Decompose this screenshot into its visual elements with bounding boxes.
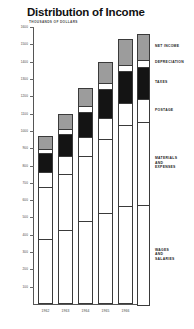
y-axis-tick	[30, 252, 34, 253]
y-axis-tick	[30, 62, 34, 63]
x-axis-label-1964: 1964	[76, 309, 96, 313]
bar-segment-wages-and-salaries	[79, 222, 92, 303]
bar-1963[interactable]	[58, 114, 73, 304]
x-axis-label-1966: 1966	[116, 309, 136, 313]
y-axis-tick-label: 500	[23, 215, 28, 219]
bar-segment-net-income	[59, 115, 72, 131]
y-axis-tick-label: 200	[23, 267, 28, 271]
bar-segment-materials-and-expenses	[79, 157, 92, 222]
y-axis-tick-label: 1000	[21, 129, 28, 133]
chart-subtitle: THOUSANDS OF DOLLARS	[29, 20, 78, 24]
y-axis-tick	[30, 114, 34, 115]
y-axis-tick	[30, 200, 34, 201]
legend-swatch-net-income	[138, 35, 149, 61]
bar-segment-postage	[39, 173, 52, 188]
bar-segment-postage	[59, 157, 72, 174]
y-axis-tick	[30, 166, 34, 167]
y-axis-tick-label: 900	[23, 146, 28, 150]
legend-label-materials-and-expenses: MATERIALS AND EXPENSES	[155, 156, 177, 170]
y-axis-tick	[30, 79, 34, 80]
y-axis-tick-label: 400	[23, 233, 28, 237]
y-axis-tick-label: 1500	[21, 42, 28, 46]
legend-swatch-materials-and-expenses	[138, 123, 149, 206]
legend-label-depreciation: DEPRECIATION	[155, 60, 184, 65]
bar-1965[interactable]	[98, 62, 113, 304]
x-axis-label-1963: 1963	[56, 309, 76, 313]
y-axis-tick-label: 800	[23, 164, 28, 168]
bar-segment-postage	[79, 138, 92, 157]
y-axis-tick	[30, 44, 34, 45]
bar-segment-wages-and-salaries	[99, 214, 112, 303]
bar-1964[interactable]	[78, 88, 93, 304]
bar-segment-wages-and-salaries	[39, 240, 52, 303]
y-axis-tick-label: 300	[23, 250, 28, 254]
bar-segment-taxes	[79, 113, 92, 139]
bar-segment-net-income	[39, 137, 52, 150]
bar-segment-wages-and-salaries	[119, 207, 132, 303]
bar-segment-postage	[99, 119, 112, 140]
bar-segment-materials-and-expenses	[59, 175, 72, 232]
y-axis-labels: 1600150014001300120011001000900800700600…	[0, 27, 28, 305]
y-axis-tick	[30, 131, 34, 132]
y-axis-tick-label: 100	[23, 285, 28, 289]
legend-label-postage: POSTAGE	[155, 108, 173, 113]
y-axis-tick	[30, 183, 34, 184]
bar-segment-taxes	[39, 154, 52, 173]
x-axis-label-1965: 1965	[96, 309, 116, 313]
bar-segment-taxes	[59, 135, 72, 157]
bar-segment-net-income	[99, 63, 112, 85]
legend-label-taxes: TAXES	[155, 80, 168, 85]
bar-segment-taxes	[99, 90, 112, 119]
y-axis-tick-label: 1300	[21, 77, 28, 81]
legend-swatch-wages-and-salaries	[138, 206, 149, 305]
bar-segment-postage	[119, 104, 132, 126]
legend-swatch-postage	[138, 100, 149, 123]
legend-label-wages-and-salaries: WAGES AND SALARIES	[155, 248, 175, 262]
bar-segment-materials-and-expenses	[119, 126, 132, 207]
bar-segment-net-income	[119, 40, 132, 66]
y-axis-tick-label: 600	[23, 198, 28, 202]
y-axis-tick	[30, 96, 34, 97]
bar-segment-wages-and-salaries	[59, 231, 72, 303]
y-axis-tick	[30, 235, 34, 236]
y-axis-tick	[30, 148, 34, 149]
y-axis-tick	[30, 269, 34, 270]
y-axis-tick-label: 700	[23, 181, 28, 185]
bar-segment-net-income	[79, 89, 92, 108]
x-axis-line	[33, 304, 138, 305]
legend-label-net-income: NET INCOME	[155, 44, 179, 49]
y-axis-tick-label: 1100	[21, 112, 28, 116]
legend-swatch-taxes	[138, 68, 149, 101]
bar-segment-materials-and-expenses	[99, 140, 112, 214]
y-axis-tick-label: 1400	[21, 60, 28, 64]
y-axis-tick	[30, 217, 34, 218]
x-axis-label-1962: 1962	[36, 309, 56, 313]
bar-segment-taxes	[119, 72, 132, 104]
bar-segment-materials-and-expenses	[39, 188, 52, 239]
chart-figure: Distribution of Income THOUSANDS OF DOLL…	[0, 0, 194, 329]
y-axis-tick	[30, 27, 34, 28]
legend-sample-bar	[137, 34, 150, 306]
y-axis-tick-label: 1600	[21, 25, 28, 29]
y-axis-tick	[30, 287, 34, 288]
bar-1966[interactable]	[118, 39, 133, 304]
chart-title: Distribution of Income	[27, 6, 145, 18]
plot-area	[33, 27, 138, 305]
bar-1962[interactable]	[38, 136, 53, 304]
y-axis-tick-label: 1200	[21, 94, 28, 98]
